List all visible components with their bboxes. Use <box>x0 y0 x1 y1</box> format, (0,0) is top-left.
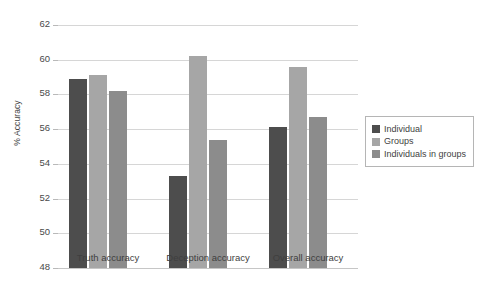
y-axis-tick-label: 56 <box>26 123 50 133</box>
legend-label: Individual <box>384 124 422 134</box>
bar <box>109 91 127 268</box>
y-axis-tick-label: 62 <box>26 19 50 29</box>
bar <box>289 67 307 268</box>
x-axis-label: Deception accuracy <box>158 252 258 263</box>
bar <box>69 79 87 268</box>
chart-legend: IndividualGroupsIndividuals in groups <box>365 116 474 167</box>
x-axis-label: Truth accuracy <box>58 252 158 263</box>
y-axis-tick <box>53 233 58 234</box>
x-axis-label: Overall accuracy <box>258 252 358 263</box>
legend-label: Groups <box>384 136 414 146</box>
gridline <box>58 60 358 61</box>
bar <box>269 127 287 268</box>
legend-item: Individual <box>372 124 466 134</box>
y-axis-tick <box>53 60 58 61</box>
y-axis-tick-label: 54 <box>26 158 50 168</box>
bar <box>89 75 107 268</box>
y-axis-tick-label: 60 <box>26 54 50 64</box>
y-axis-tick <box>53 129 58 130</box>
y-axis-tick-label: 52 <box>26 193 50 203</box>
legend-item: Groups <box>372 136 466 146</box>
y-axis-tick <box>53 199 58 200</box>
gridline <box>58 268 358 269</box>
gridline <box>58 25 358 26</box>
bar <box>189 56 207 268</box>
bar <box>309 117 327 268</box>
y-axis-tick <box>53 25 58 26</box>
legend-swatch-icon <box>372 138 380 146</box>
y-axis-tick-label: 48 <box>26 262 50 272</box>
legend-label: Individuals in groups <box>384 149 466 159</box>
y-axis-title: % Accuracy <box>12 78 22 168</box>
plot-area: 4850525456586062 <box>58 25 358 268</box>
y-axis-tick <box>53 94 58 95</box>
y-axis-tick-label: 50 <box>26 227 50 237</box>
legend-swatch-icon <box>372 150 380 158</box>
bar <box>209 140 227 268</box>
legend-swatch-icon <box>372 125 380 133</box>
y-axis-tick-label: 58 <box>26 88 50 98</box>
y-axis-tick <box>53 268 58 269</box>
y-axis-tick <box>53 164 58 165</box>
bar-chart: % Accuracy 4850525456586062 Truth accura… <box>0 0 500 305</box>
legend-item: Individuals in groups <box>372 149 466 159</box>
